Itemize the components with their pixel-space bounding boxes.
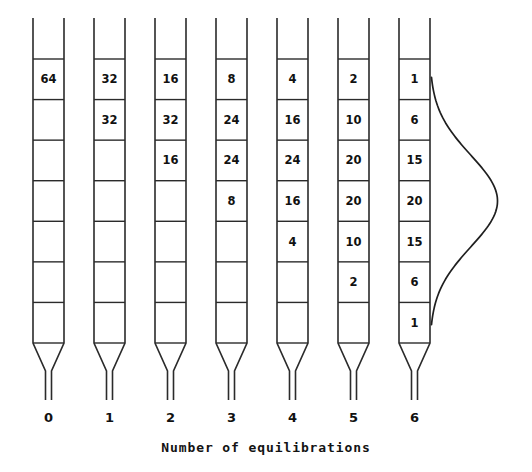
tube-cell-value: 15 [406, 153, 422, 167]
tube-cell-value: 1 [410, 316, 418, 330]
tube-cell-value: 24 [284, 153, 300, 167]
axis-tick-label-5: 5 [349, 410, 358, 425]
tubes-group: 6432321632168242484162416421020201021615… [33, 18, 430, 400]
tube-cell-value: 6 [410, 113, 418, 127]
tube-cell-value: 1 [410, 72, 418, 86]
tube-cell-value: 20 [345, 194, 361, 208]
axis-tick-labels-group: 0123456 [44, 410, 419, 425]
tube-cell-value: 20 [345, 153, 361, 167]
tube-cell-value: 10 [345, 113, 361, 127]
axis-tick-label-1: 1 [105, 410, 114, 425]
figure-canvas: 6432321632168242484162416421020201021615… [0, 0, 532, 472]
tube-cell-value: 20 [406, 194, 422, 208]
tube-cell-value: 8 [227, 72, 235, 86]
tube-6: 1615201561 [399, 18, 430, 400]
tube-cell-value: 16 [284, 194, 300, 208]
tube-2: 163216 [155, 18, 186, 400]
tube-cell-value: 4 [288, 235, 296, 249]
axis-tick-label-2: 2 [166, 410, 175, 425]
bell-curve-group [432, 77, 498, 324]
tube-cell-value: 16 [162, 72, 178, 86]
tube-cell-value: 16 [284, 113, 300, 127]
tube-cell-value: 24 [223, 113, 239, 127]
tube-5: 2102020102 [338, 18, 369, 400]
axis-caption: Number of equilibrations [0, 440, 532, 455]
countercurrent-distribution-figure: 6432321632168242484162416421020201021615… [0, 0, 532, 472]
tube-4: 41624164 [277, 18, 308, 400]
tube-cell-value: 10 [345, 235, 361, 249]
tube-cell-value: 32 [101, 113, 117, 127]
tube-1: 3232 [94, 18, 125, 400]
tube-0: 64 [33, 18, 64, 400]
tube-cell-value: 6 [410, 275, 418, 289]
tube-cell-value: 2 [349, 275, 357, 289]
normal-distribution-curve [432, 77, 498, 324]
axis-tick-label-3: 3 [227, 410, 236, 425]
tube-3: 824248 [216, 18, 247, 400]
tube-cell-value: 24 [223, 153, 239, 167]
axis-tick-label-4: 4 [288, 410, 297, 425]
axis-tick-label-0: 0 [44, 410, 53, 425]
tube-cell-value: 2 [349, 72, 357, 86]
tube-cell-value: 32 [101, 72, 117, 86]
tube-cell-value: 16 [162, 153, 178, 167]
tube-cell-value: 64 [40, 72, 56, 86]
tube-cell-value: 15 [406, 235, 422, 249]
axis-tick-label-6: 6 [410, 410, 419, 425]
tube-cell-value: 32 [162, 113, 178, 127]
tube-cell-value: 4 [288, 72, 296, 86]
tube-cell-value: 8 [227, 194, 235, 208]
